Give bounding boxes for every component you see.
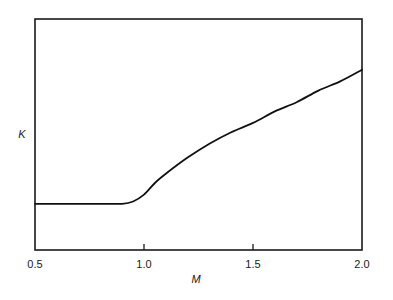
- x-axis-label: M: [191, 273, 201, 285]
- plot-frame: [35, 19, 362, 250]
- x-tick-label: 1.0: [136, 258, 151, 270]
- x-tick-label: 1.5: [245, 258, 260, 270]
- x-tick-label: 0.5: [27, 258, 42, 270]
- chart: 0.51.01.52.0 M K: [0, 0, 393, 300]
- y-axis-label: K: [18, 128, 26, 140]
- x-tick-labels: 0.51.01.52.0: [27, 258, 369, 270]
- data-curve: [35, 70, 362, 204]
- x-tick-label: 2.0: [354, 258, 369, 270]
- x-axis-ticks: [144, 244, 253, 250]
